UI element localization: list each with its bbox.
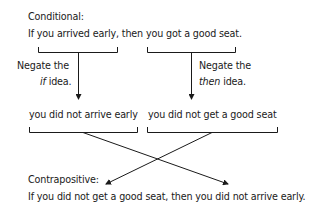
bracket-if-clause (39, 47, 118, 53)
bracket-then-clause (148, 47, 236, 53)
bracket-negated-then (148, 127, 278, 133)
negate-then-keyword: then (199, 76, 220, 87)
arrow-cross-to-if (106, 133, 212, 185)
negated-if-text: you did not arrive early (29, 109, 138, 120)
contrapositive-sentence: If you did not get a good seat, then you… (28, 191, 305, 202)
negate-if-rest: idea. (46, 76, 72, 87)
negate-if-line2: if idea. (40, 76, 72, 87)
negate-then-line1: Negate the (199, 60, 251, 71)
negate-then-line2: then idea. (199, 76, 246, 87)
contrapositive-label: Contrapositive: (28, 174, 99, 185)
arrow-cross-to-then (83, 133, 228, 185)
negate-then-rest: idea. (220, 76, 246, 87)
conditional-label: Conditional: (28, 11, 84, 22)
bracket-negated-if (30, 127, 138, 133)
negate-if-line1: Negate the (17, 60, 69, 71)
conditional-sentence: If you arrived early, then you got a goo… (28, 28, 242, 39)
negated-then-text: you did not get a good seat (148, 109, 277, 120)
